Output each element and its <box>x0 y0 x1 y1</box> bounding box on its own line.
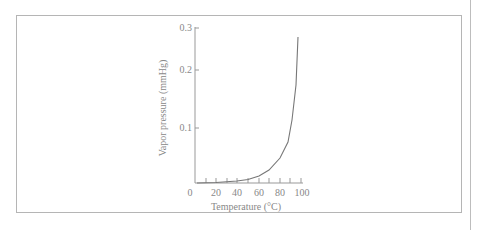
y-tick-label: 0.3 <box>180 22 193 33</box>
y-tick-label: 0.1 <box>180 122 193 133</box>
x-tick-label: 80 <box>275 187 285 198</box>
x-tick-label: 40 <box>232 187 242 198</box>
vapor-pressure-curve <box>197 37 298 183</box>
x-tick-label: 60 <box>254 187 264 198</box>
x-tick-label: 20 <box>211 187 221 198</box>
y-axis-label: Vapor pressure (mmHg) <box>157 60 169 157</box>
x-tick-label: 100 <box>295 187 310 198</box>
y-tick-label: 0.2 <box>180 64 193 75</box>
x-tick-label: 0 <box>188 187 193 198</box>
x-axis-label: Temperature (°C) <box>211 201 281 213</box>
vapor-pressure-chart: 0.3 0.2 0.1 0 20 40 60 80 100 Temperatur… <box>0 0 479 230</box>
